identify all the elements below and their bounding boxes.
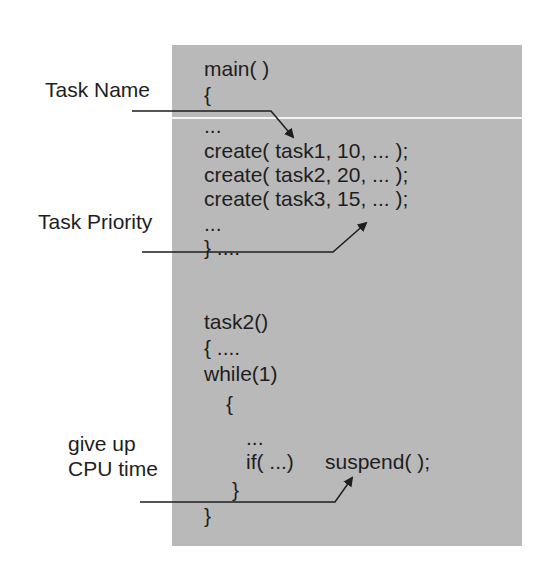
arrow-task-priority xyxy=(142,223,366,252)
annotation-arrows xyxy=(0,0,545,578)
arrow-task-name xyxy=(132,111,293,137)
arrow-give-up-cpu xyxy=(140,478,352,502)
